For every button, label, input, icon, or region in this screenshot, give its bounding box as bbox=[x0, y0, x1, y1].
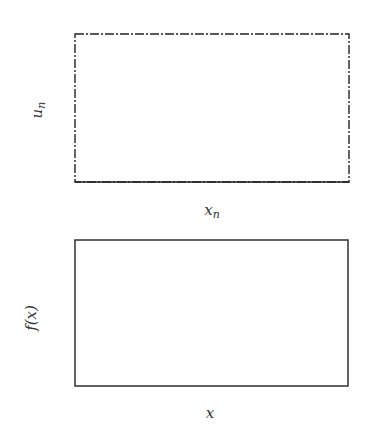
top-axes: xn un bbox=[28, 34, 349, 221]
top-x-axis-label: xn bbox=[204, 201, 220, 221]
bottom-y-axis-label: f(x) bbox=[22, 305, 40, 332]
top-y-axis-label: un bbox=[28, 102, 48, 119]
bottom-x-axis-label: x bbox=[206, 404, 215, 422]
bottom-axes: x f(x) bbox=[22, 240, 348, 422]
top-axes-frame bbox=[75, 34, 349, 182]
bottom-axes-frame bbox=[75, 240, 348, 386]
figure: xn un x f(x) bbox=[0, 0, 371, 441]
